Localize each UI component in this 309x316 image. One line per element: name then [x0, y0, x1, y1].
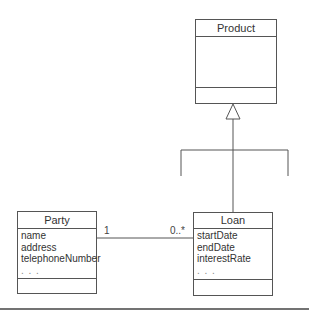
attribute-end-date: endDate: [197, 242, 272, 254]
class-party[interactable]: Party name address telephoneNumber . . .: [17, 211, 97, 294]
attribute-start-date: startDate: [197, 230, 272, 242]
attribute-interest-rate: interestRate: [197, 253, 272, 265]
multiplicity-loan-end: 0..*: [170, 225, 185, 236]
class-party-name: Party: [18, 212, 96, 229]
attribute-ellipsis: . . .: [197, 265, 272, 277]
class-product-attributes: [196, 37, 276, 88]
class-product-operations: [196, 88, 276, 103]
attribute-address: address: [21, 242, 96, 254]
class-product[interactable]: Product: [195, 19, 277, 104]
generalization-arrowhead: [226, 104, 240, 119]
class-loan-attributes: startDate endDate interestRate . . .: [194, 229, 272, 280]
class-loan-operations: [194, 280, 272, 295]
class-party-operations: [18, 279, 96, 293]
attribute-ellipsis: . . .: [21, 265, 96, 277]
class-party-attributes: name address telephoneNumber . . .: [18, 229, 96, 279]
attribute-name: name: [21, 230, 96, 242]
attribute-telephone-number: telephoneNumber: [21, 253, 96, 265]
class-loan-name: Loan: [194, 213, 272, 229]
class-product-name: Product: [196, 20, 276, 37]
multiplicity-party-end: 1: [104, 225, 110, 236]
class-loan[interactable]: Loan startDate endDate interestRate . . …: [193, 212, 273, 296]
